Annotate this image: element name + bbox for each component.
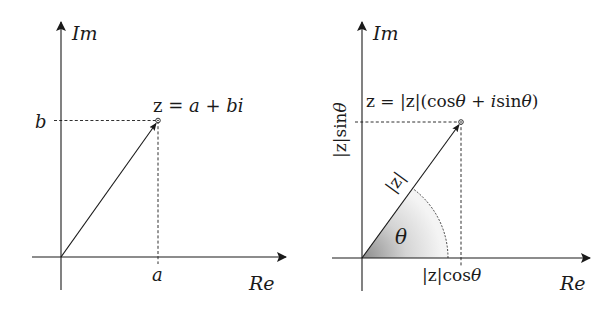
left-point-center bbox=[157, 120, 159, 122]
left-vector-arrow bbox=[61, 124, 156, 258]
angle-theta-label: θ bbox=[395, 225, 407, 249]
right-re-label: Re bbox=[559, 272, 586, 294]
right-y-tick-label: |z|sinθ bbox=[330, 102, 350, 158]
left-im-label: Im bbox=[71, 22, 98, 44]
left-b-tick-label: b bbox=[35, 111, 47, 132]
right-point-label: z = |z|(cosθ + isinθ) bbox=[366, 91, 538, 111]
complex-plane-figure: Im Re b a z = a + bi Im Re z = |z|(cosθ … bbox=[0, 0, 609, 311]
right-x-tick-label: |z|cosθ bbox=[422, 265, 481, 285]
left-re-label: Re bbox=[248, 272, 275, 294]
right-point-center bbox=[460, 121, 462, 123]
right-diagram-polar-form: Im Re z = |z|(cosθ + isinθ) |z|sinθ |z|c… bbox=[330, 22, 590, 294]
left-point-label: z = a + bi bbox=[153, 95, 244, 116]
right-im-label: Im bbox=[372, 22, 399, 44]
left-diagram-rectangular-form: Im Re b a z = a + bi bbox=[32, 22, 286, 294]
left-a-tick-label: a bbox=[152, 264, 163, 285]
vector-magnitude-label: |z| bbox=[381, 168, 409, 196]
